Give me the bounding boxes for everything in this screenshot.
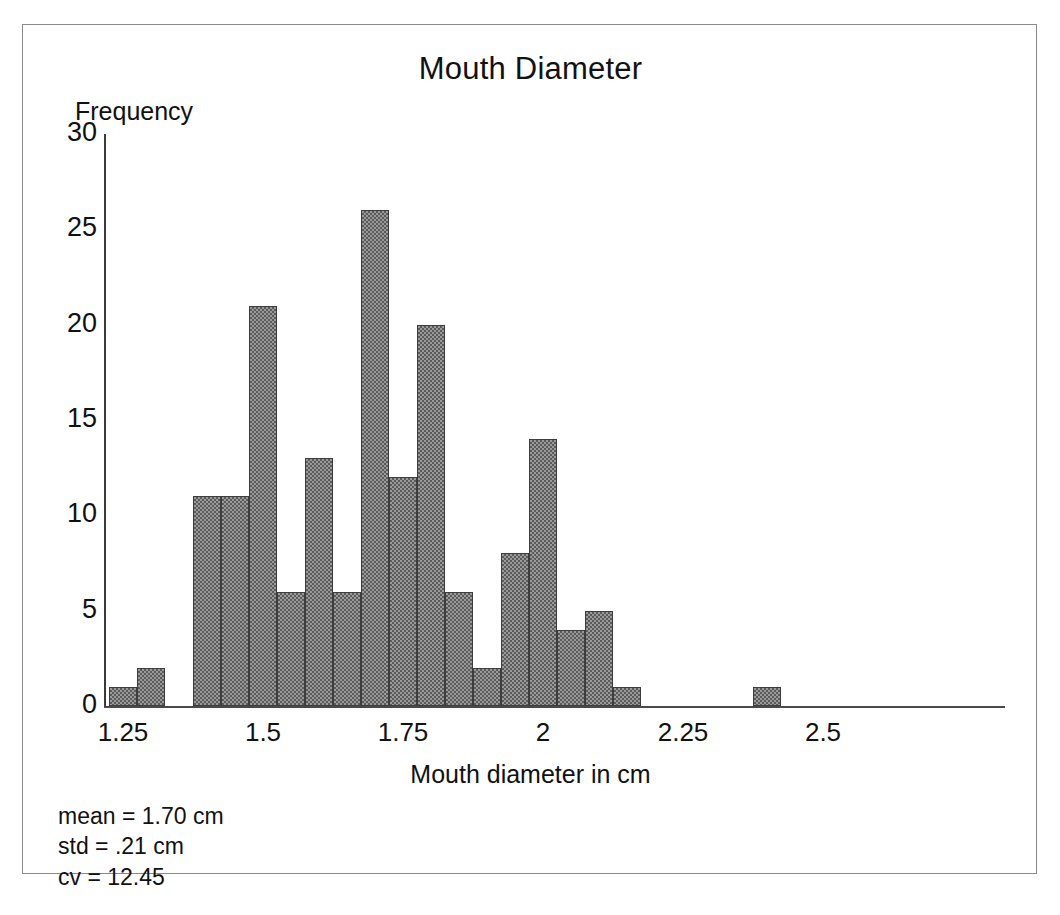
- stat-mean: mean = 1.70 cm: [58, 801, 224, 831]
- histogram-bar: [753, 687, 781, 706]
- histogram-bar: [529, 439, 557, 706]
- histogram-bar: [501, 553, 529, 706]
- histogram-bar: [333, 592, 361, 706]
- histogram-bar: [305, 458, 333, 706]
- figure-frame: Mouth Diameter Frequency 051015202530 1.…: [22, 24, 1037, 874]
- histogram-bars: [23, 25, 1038, 875]
- plot-area: Frequency 051015202530 1.251.51.7522.252…: [23, 25, 1038, 875]
- histogram-bar: [557, 630, 585, 706]
- stats-annotation: mean = 1.70 cm std = .21 cm cv = 12.45: [58, 801, 224, 892]
- screenshot-page: Mouth Diameter Frequency 051015202530 1.…: [0, 0, 1060, 915]
- histogram-bar: [221, 496, 249, 706]
- histogram-bar: [445, 592, 473, 706]
- histogram-bar: [109, 687, 137, 706]
- histogram-bar: [389, 477, 417, 706]
- histogram-bar: [417, 325, 445, 706]
- histogram-bar: [473, 668, 501, 706]
- histogram-bar: [361, 210, 389, 706]
- histogram-bar: [249, 306, 277, 706]
- histogram-bar: [613, 687, 641, 706]
- stat-std: std = .21 cm: [58, 831, 224, 861]
- histogram-bar: [193, 496, 221, 706]
- stat-cv: cv = 12.45: [58, 862, 224, 892]
- histogram-bar: [585, 611, 613, 706]
- histogram-bar: [137, 668, 165, 706]
- histogram-bar: [277, 592, 305, 706]
